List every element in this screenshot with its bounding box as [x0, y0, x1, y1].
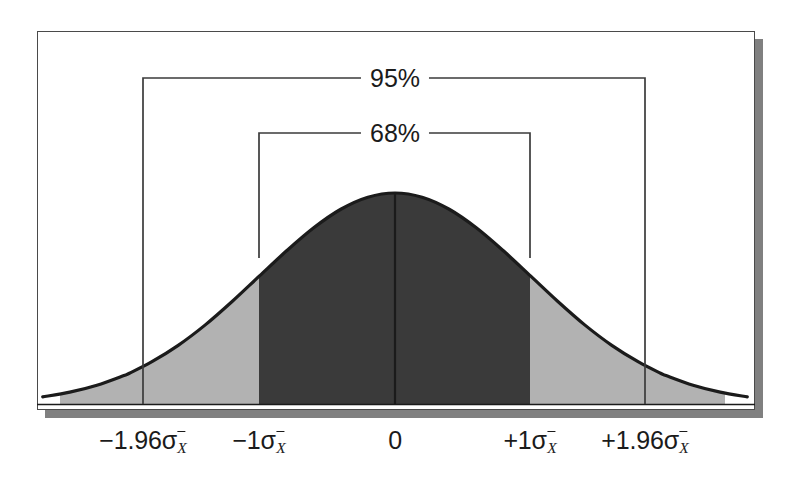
normal-distribution-figure: 95% 68% −1.96σX −1σX 0 +1σX +1.96σX [0, 0, 794, 482]
tick-value-text: 0 [388, 426, 402, 454]
tick-label-plus-1-96-sigma: +1.96σX [601, 424, 688, 464]
tick-label-zero: 0 [388, 424, 402, 456]
tick-value-text: −1.96 [99, 426, 161, 454]
tick-value-text: −1 [232, 426, 260, 454]
bracket-68-label: 68% [361, 119, 429, 147]
x-axis-tick-labels: −1.96σX −1σX 0 +1σX +1.96σX [0, 424, 794, 468]
sigma-symbol: σ [162, 426, 177, 454]
tick-label-minus-1-sigma: −1σX [232, 424, 285, 464]
x-bar-subscript: X [547, 439, 556, 456]
tick-value-text: +1 [503, 426, 531, 454]
curve-fills [60, 180, 725, 406]
sigma-symbol: σ [261, 426, 276, 454]
tick-label-minus-1-96-sigma: −1.96σX [99, 424, 186, 464]
tick-value-text: +1.96 [601, 426, 663, 454]
x-bar-subscript: X [177, 439, 186, 456]
outer-band-fill-left [60, 180, 265, 406]
outer-band-fill-right [525, 180, 725, 406]
x-bar-subscript: X [679, 439, 688, 456]
tick-label-plus-1-sigma: +1σX [503, 424, 556, 464]
sigma-symbol: σ [532, 426, 547, 454]
x-bar-subscript: X [276, 439, 285, 456]
sigma-symbol: σ [664, 426, 679, 454]
bracket-95-label: 95% [361, 64, 429, 92]
